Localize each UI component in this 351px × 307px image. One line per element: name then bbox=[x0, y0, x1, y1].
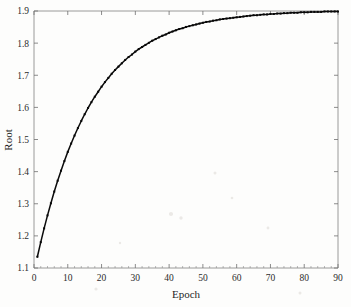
data-point-marker bbox=[320, 11, 322, 13]
data-point-marker bbox=[236, 16, 238, 18]
data-point-marker bbox=[307, 11, 309, 13]
data-point-marker bbox=[259, 14, 261, 16]
data-point-marker bbox=[313, 11, 315, 13]
data-point-marker bbox=[290, 12, 292, 14]
data-point-marker bbox=[266, 13, 268, 15]
data-point-marker bbox=[131, 54, 133, 56]
data-point-marker bbox=[87, 107, 89, 109]
data-point-marker bbox=[138, 48, 140, 50]
data-point-marker bbox=[117, 66, 119, 68]
line-chart: 0102030405060708090 1.11.21.31.41.51.61.… bbox=[0, 0, 351, 307]
data-point-marker bbox=[50, 202, 52, 204]
y-tick-label: 1.9 bbox=[17, 6, 29, 16]
x-tick-label: 70 bbox=[266, 273, 276, 283]
x-axis-title: Epoch bbox=[172, 288, 201, 300]
chart-background bbox=[0, 0, 351, 307]
x-tick-label: 80 bbox=[299, 273, 309, 283]
data-point-marker bbox=[182, 27, 184, 29]
y-tick-label: 1.5 bbox=[17, 135, 29, 145]
data-point-marker bbox=[205, 21, 207, 23]
data-point-marker bbox=[165, 33, 167, 35]
data-point-marker bbox=[168, 32, 170, 34]
data-point-marker bbox=[323, 10, 325, 12]
data-point-marker bbox=[300, 11, 302, 13]
data-point-marker bbox=[40, 241, 42, 243]
data-point-marker bbox=[256, 14, 258, 16]
data-point-marker bbox=[317, 11, 319, 13]
data-point-marker bbox=[212, 20, 214, 22]
data-point-marker bbox=[273, 13, 275, 15]
data-point-marker bbox=[155, 38, 157, 40]
data-point-marker bbox=[43, 227, 45, 229]
data-point-marker bbox=[202, 22, 204, 24]
data-point-marker bbox=[242, 16, 244, 18]
data-point-marker bbox=[249, 15, 251, 17]
data-point-marker bbox=[114, 69, 116, 71]
data-point-marker bbox=[263, 13, 265, 15]
data-point-marker bbox=[53, 191, 55, 193]
data-point-marker bbox=[161, 35, 163, 37]
data-point-marker bbox=[226, 18, 228, 20]
data-point-marker bbox=[337, 10, 339, 12]
y-tick-label: 1.7 bbox=[17, 71, 29, 81]
data-point-marker bbox=[121, 62, 123, 64]
data-point-marker bbox=[111, 73, 113, 75]
x-tick-label: 40 bbox=[164, 273, 174, 283]
data-point-marker bbox=[67, 151, 69, 153]
data-point-marker bbox=[269, 13, 271, 15]
data-point-marker bbox=[70, 143, 72, 145]
data-point-marker bbox=[171, 31, 173, 33]
x-tick-label: 30 bbox=[131, 273, 141, 283]
x-tick-label: 50 bbox=[198, 273, 208, 283]
y-axis-title: Root bbox=[2, 129, 14, 150]
data-point-marker bbox=[104, 81, 106, 83]
data-point-marker bbox=[232, 17, 234, 19]
data-point-marker bbox=[246, 15, 248, 17]
data-point-marker bbox=[80, 120, 82, 122]
x-tick-label: 20 bbox=[97, 273, 107, 283]
data-point-marker bbox=[222, 18, 224, 20]
data-point-marker bbox=[280, 13, 282, 15]
data-point-marker bbox=[327, 10, 329, 12]
data-point-marker bbox=[144, 44, 146, 46]
data-point-marker bbox=[293, 12, 295, 14]
data-point-marker bbox=[239, 16, 241, 18]
data-point-marker bbox=[134, 51, 136, 53]
y-tick-label: 1.2 bbox=[17, 231, 29, 241]
data-point-marker bbox=[141, 46, 143, 48]
data-point-marker bbox=[151, 40, 153, 42]
x-tick-label: 10 bbox=[63, 273, 73, 283]
data-point-marker bbox=[334, 10, 336, 12]
data-point-marker bbox=[296, 12, 298, 14]
data-point-marker bbox=[57, 180, 59, 182]
data-point-marker bbox=[128, 56, 130, 58]
data-point-marker bbox=[286, 12, 288, 14]
y-tick-label: 1.4 bbox=[17, 167, 29, 177]
data-point-marker bbox=[47, 214, 49, 216]
data-point-marker bbox=[84, 113, 86, 115]
data-point-marker bbox=[107, 77, 109, 79]
data-point-marker bbox=[310, 11, 312, 13]
data-point-marker bbox=[77, 127, 79, 129]
data-point-marker bbox=[124, 59, 126, 61]
y-tick-label: 1.8 bbox=[17, 39, 29, 49]
data-point-marker bbox=[178, 28, 180, 30]
data-point-marker bbox=[74, 135, 76, 137]
data-point-marker bbox=[192, 24, 194, 26]
y-tick-label: 1.1 bbox=[17, 263, 29, 273]
data-point-marker bbox=[148, 42, 150, 44]
data-point-marker bbox=[283, 12, 285, 14]
data-point-marker bbox=[199, 23, 201, 25]
data-point-marker bbox=[209, 21, 211, 23]
data-point-marker bbox=[97, 91, 99, 93]
x-tick-label: 60 bbox=[232, 273, 242, 283]
x-tick-label: 90 bbox=[333, 273, 343, 283]
data-point-marker bbox=[253, 14, 255, 16]
data-point-marker bbox=[185, 26, 187, 28]
data-point-marker bbox=[101, 86, 103, 88]
data-point-marker bbox=[175, 29, 177, 31]
data-point-marker bbox=[276, 13, 278, 15]
data-point-marker bbox=[60, 170, 62, 172]
data-point-marker bbox=[158, 36, 160, 38]
data-point-marker bbox=[195, 23, 197, 25]
